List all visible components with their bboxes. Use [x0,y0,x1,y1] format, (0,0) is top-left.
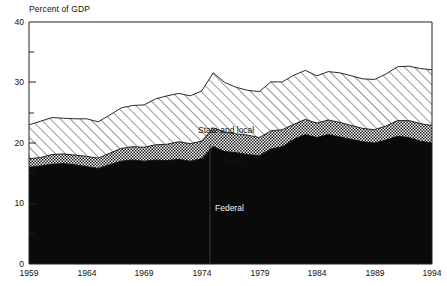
y-tick-label-30: 30 [2,77,24,87]
x-tick-label-1989: 1989 [355,268,395,278]
x-tick-label-1974: 1974 [182,268,222,278]
plot-svg [0,0,447,286]
x-tick-label-1984: 1984 [297,268,337,278]
y-tick-label-20: 20 [2,138,24,148]
y-axis-title: Percent of GDP [29,4,90,14]
y-tick-label-40: 40 [2,17,24,27]
x-tick-label-1959: 1959 [9,268,49,278]
x-tick-label-1969: 1969 [124,268,164,278]
chart-container: Percent of GDP 40 30 20 10 0 1959 1964 1… [0,0,447,286]
y-tick-label-10: 10 [2,198,24,208]
x-tick-label-1964: 1964 [67,268,107,278]
x-tick-label-1979: 1979 [240,268,280,278]
x-tick-label-1994: 1994 [412,268,447,278]
